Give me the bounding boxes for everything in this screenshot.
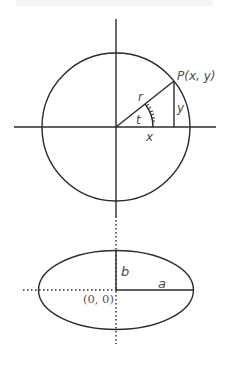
angle-arc bbox=[145, 104, 153, 127]
radius-label: r bbox=[138, 90, 144, 104]
x-label: x bbox=[145, 130, 154, 144]
angle-label: t bbox=[136, 113, 142, 127]
circle-diagram: P(x, y) r t x y bbox=[14, 19, 216, 218]
diagram-canvas: P(x, y) r t x y b a (0, 0) bbox=[0, 0, 228, 366]
semi-major-label: a bbox=[158, 276, 166, 291]
origin-label: (0, 0) bbox=[83, 292, 114, 306]
semi-minor-label: b bbox=[121, 264, 129, 279]
point-label: P(x, y) bbox=[177, 69, 215, 83]
y-label: y bbox=[176, 101, 185, 115]
ellipse-diagram: b a (0, 0) bbox=[23, 251, 194, 345]
